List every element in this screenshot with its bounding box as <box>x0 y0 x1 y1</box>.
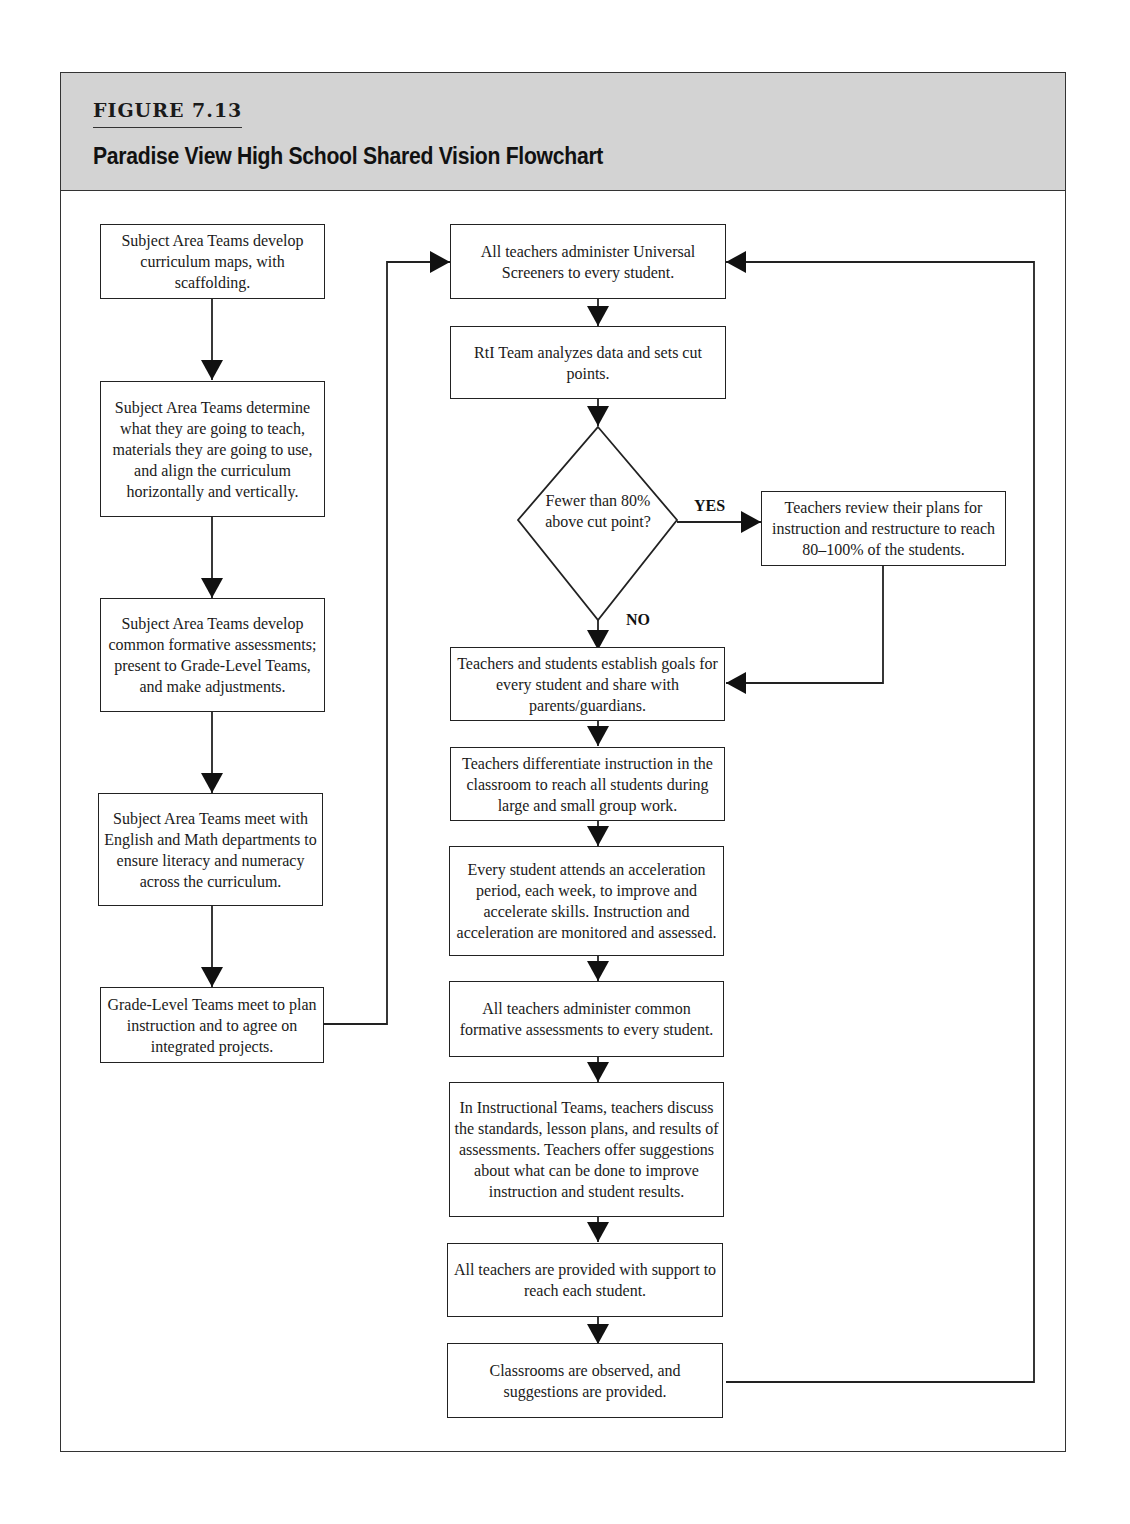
step-text: Teachers review their plans for instruct… <box>766 497 1001 560</box>
step-text: Subject Area Teams develop common format… <box>105 613 320 697</box>
step-text: All teachers administer common formative… <box>454 998 719 1040</box>
step-box-M5: Every student attends an acceleration pe… <box>449 846 724 956</box>
arrow-M9-M1-loop <box>726 262 1034 1382</box>
step-box-M2: RtI Team analyzes data and sets cut poin… <box>450 326 726 399</box>
step-box-L2: Subject Area Teams determine what they a… <box>100 381 325 517</box>
step-text: Teachers differentiate instruction in th… <box>455 753 720 816</box>
step-box-L5: Grade-Level Teams meet to plan instructi… <box>100 987 324 1063</box>
step-box-L1: Subject Area Teams develop curriculum ma… <box>100 224 325 299</box>
step-box-S1: Teachers review their plans for instruct… <box>761 491 1006 566</box>
step-text: Grade-Level Teams meet to plan instructi… <box>105 994 319 1057</box>
step-box-M7: In Instructional Teams, teachers discuss… <box>449 1082 724 1217</box>
step-box-L3: Subject Area Teams develop common format… <box>100 598 325 712</box>
arrow-S1-M3 <box>726 565 883 683</box>
step-box-M8: All teachers are provided with support t… <box>447 1243 723 1317</box>
step-box-M9: Classrooms are observed, and suggestions… <box>447 1343 723 1418</box>
step-text: Subject Area Teams meet with English and… <box>103 808 318 892</box>
step-box-M1: All teachers administer Universal Screen… <box>450 224 726 299</box>
step-box-M6: All teachers administer common formative… <box>449 981 724 1057</box>
step-box-L4: Subject Area Teams meet with English and… <box>98 793 323 906</box>
no-label: NO <box>626 611 650 629</box>
step-text: RtI Team analyzes data and sets cut poin… <box>455 342 721 384</box>
step-text: All teachers are provided with support t… <box>452 1259 718 1301</box>
step-text: Every student attends an acceleration pe… <box>454 859 719 943</box>
step-box-M4: Teachers differentiate instruction in th… <box>450 747 725 821</box>
step-text: Subject Area Teams develop curriculum ma… <box>105 230 320 293</box>
decision-text: Fewer than 80% above cut point? <box>540 490 656 532</box>
step-text: Teachers and students establish goals fo… <box>455 653 720 716</box>
step-text: Classrooms are observed, and suggestions… <box>452 1360 718 1402</box>
step-box-M3: Teachers and students establish goals fo… <box>450 647 725 721</box>
yes-label: YES <box>694 497 725 515</box>
step-text: In Instructional Teams, teachers discuss… <box>454 1097 719 1202</box>
step-text: Subject Area Teams determine what they a… <box>105 397 320 502</box>
arrow-L5-M1 <box>323 262 450 1024</box>
step-text: All teachers administer Universal Screen… <box>455 241 721 283</box>
